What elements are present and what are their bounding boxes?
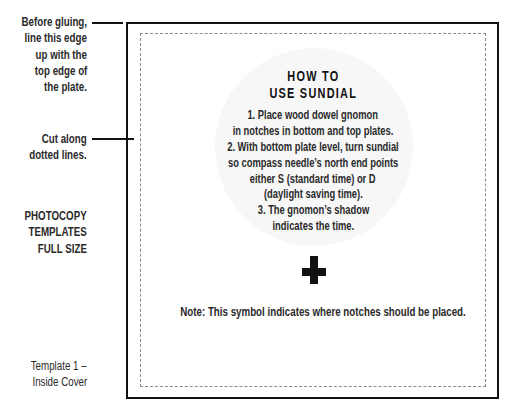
instruction-line: either S (standard time) or D: [250, 172, 376, 188]
gluing-leader-line: [92, 22, 123, 24]
gluing-line: top edge of: [34, 63, 87, 79]
cut-line-text: dotted lines.: [30, 147, 87, 163]
cross-horizontal-bar: [302, 268, 326, 276]
gluing-line: Before gluing,: [21, 14, 87, 30]
instructions: 1. Place wood dowel gnomon in notches in…: [140, 108, 486, 235]
photocopy-label: PHOTOCOPY TEMPLATES FULL SIZE: [7, 208, 87, 257]
instruction-line: 2. With bottom plate level, turn sundial: [227, 140, 399, 156]
template-caption-line: Template 1 –: [31, 358, 87, 374]
photocopy-line: PHOTOCOPY: [25, 208, 87, 224]
instruction-line: in notches in bottom and top plates.: [233, 124, 394, 140]
photocopy-line: TEMPLATES: [29, 224, 87, 240]
title-line: HOW TO: [287, 68, 339, 84]
photocopy-line: FULL SIZE: [38, 241, 87, 257]
gluing-line: line this edge: [25, 30, 87, 46]
notch-note: Note: This symbol indicates where notche…: [140, 305, 486, 319]
instruction-line: (daylight saving time).: [264, 187, 363, 203]
gluing-line: the plate.: [44, 79, 87, 95]
note-text: Note: This symbol indicates where notche…: [180, 305, 466, 319]
cut-line-text: Cut along: [42, 131, 87, 147]
gluing-instruction: Before gluing, line this edge up with th…: [3, 14, 87, 95]
template-title: HOW TO: [140, 68, 486, 84]
template-caption: Template 1 – Inside Cover: [15, 358, 87, 391]
instruction-line: 3. The gnomon’s shadow: [257, 203, 368, 219]
template-title: USE SUNDIAL: [140, 85, 486, 101]
template-caption-line: Inside Cover: [32, 374, 87, 390]
gluing-line: up with the: [36, 47, 87, 63]
title-line: USE SUNDIAL: [269, 85, 357, 101]
instruction-line: 1. Place wood dowel gnomon: [248, 108, 379, 124]
cut-instruction: Cut along dotted lines.: [13, 131, 87, 164]
instruction-line: indicates the time.: [272, 219, 354, 235]
instruction-line: so compass needle’s north end points: [228, 156, 398, 172]
